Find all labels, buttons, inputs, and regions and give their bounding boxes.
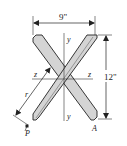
- y-axis-label-top: y: [66, 35, 71, 44]
- x-section-diagram: 9" y y z z 12" r P A: [0, 0, 127, 146]
- point-p-label: P: [24, 129, 30, 138]
- point-a-label: A: [91, 124, 97, 133]
- y-axis-label-bottom: y: [66, 112, 71, 121]
- z-axis-label-left: z: [33, 70, 38, 79]
- height-label: 12": [104, 72, 117, 82]
- z-axis-label-right: z: [87, 70, 92, 79]
- width-label: 9": [59, 12, 68, 22]
- r-extension: [13, 115, 28, 125]
